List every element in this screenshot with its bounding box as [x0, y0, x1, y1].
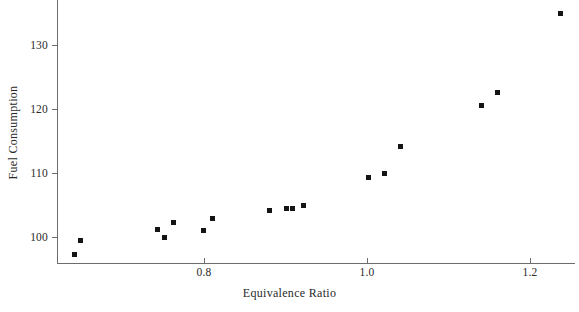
y-tick-mark	[52, 109, 58, 110]
data-point	[366, 175, 371, 180]
x-tick-mark	[204, 258, 205, 264]
x-tick-label: 0.8	[184, 266, 224, 279]
y-tick-mark	[52, 237, 58, 238]
y-tick-mark	[52, 173, 58, 174]
y-axis-line	[57, 0, 58, 264]
data-point	[290, 206, 295, 211]
data-point	[201, 228, 206, 233]
data-point	[72, 252, 77, 257]
data-point	[78, 238, 83, 243]
data-point	[162, 235, 167, 240]
x-axis-line	[57, 263, 575, 264]
y-axis-title: Fuel Consumption	[4, 0, 24, 264]
data-point	[495, 90, 500, 95]
data-point	[301, 203, 306, 208]
data-point	[284, 206, 289, 211]
x-tick-label: 1.0	[347, 266, 387, 279]
plot-area: 100110120130 0.81.01.2 Fuel Consumption …	[0, 0, 579, 312]
x-tick-mark	[530, 258, 531, 264]
data-point	[155, 227, 160, 232]
data-point	[558, 11, 563, 16]
x-tick-label: 1.2	[510, 266, 550, 279]
data-point	[382, 171, 387, 176]
data-point	[479, 103, 484, 108]
x-tick-mark	[367, 258, 368, 264]
scatter-plot-figure: 100110120130 0.81.01.2 Fuel Consumption …	[0, 0, 579, 312]
y-tick-mark	[52, 45, 58, 46]
x-axis-title: Equivalence Ratio	[0, 286, 579, 301]
y-axis-title-text: Fuel Consumption	[7, 85, 22, 179]
data-point	[398, 144, 403, 149]
data-point	[267, 208, 272, 213]
data-point	[171, 220, 176, 225]
data-point	[210, 216, 215, 221]
